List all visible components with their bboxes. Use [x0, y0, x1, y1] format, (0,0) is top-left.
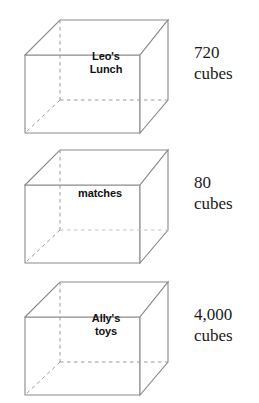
prism-svg	[20, 138, 176, 268]
cube-count-label: 4,000 cubes	[194, 304, 259, 346]
prism-leos-lunch: Leo's Lunch	[20, 8, 176, 138]
prism-face-label: Ally's toys	[56, 312, 156, 337]
prism-allys-toys: Ally's toys	[20, 270, 176, 400]
box-row-allys-toys: Ally's toys 4,000 cubes	[0, 270, 259, 400]
prism-face-label: matches	[50, 187, 150, 200]
prism-matches: matches	[20, 138, 176, 268]
box-row-leos-lunch: Leo's Lunch 720 cubes	[0, 8, 259, 138]
box-row-matches: matches 80 cubes	[0, 138, 259, 268]
volume-boxes-figure: Leo's Lunch 720 cubes matches 80 cubes	[0, 0, 259, 403]
prism-face-label: Leo's Lunch	[56, 50, 156, 75]
cube-count-label: 720 cubes	[194, 42, 259, 84]
cube-count-label: 80 cubes	[194, 172, 259, 214]
